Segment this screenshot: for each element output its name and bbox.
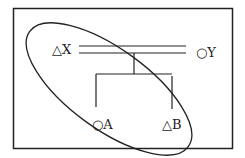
node-a-label: ○A [92,117,113,132]
node-b-label: △B [162,117,182,132]
node-y-label: ○Y [196,45,216,60]
frame-border [14,9,233,149]
node-x-label: △X [52,42,72,57]
pedigree-diagram: △X ○Y ○A △B [0,0,245,158]
grouping-ellipse [6,0,212,158]
